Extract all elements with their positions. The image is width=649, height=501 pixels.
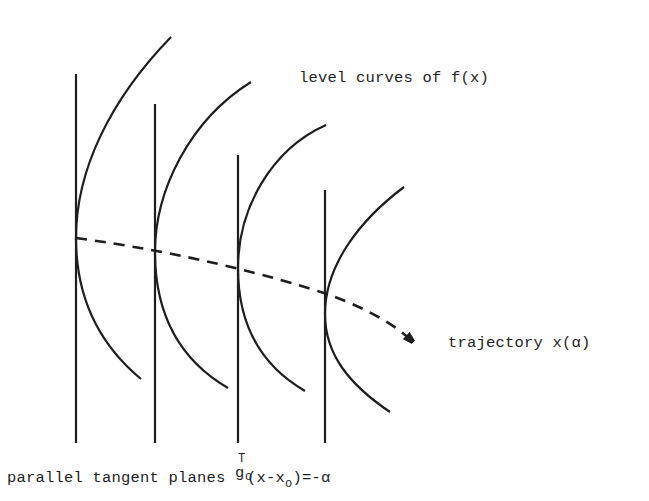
tangent-planes-label: parallel tangent planes gTo(x-xo)=-α [7,464,330,487]
tangent-planes-suffix: )=-α [292,469,330,487]
tangent-planes-mid: (x-x [247,469,285,487]
transpose-superscript: T [238,452,245,466]
level-curve-1 [76,37,171,379]
gradient-symbol: gTo [235,464,247,482]
trajectory-label: trajectory x(α) [448,334,591,352]
level-curves-label: level curves of f(x) [299,69,489,87]
trajectory-curve [76,238,412,341]
tangent-planes-prefix: parallel tangent planes [7,469,235,487]
x-subscript: o [285,477,292,491]
level-curve-3 [238,125,326,391]
level-curve-4 [325,187,404,412]
gradient-g: g [235,464,245,482]
gradient-subscript: o [245,470,252,484]
level-curve-2 [155,82,251,388]
